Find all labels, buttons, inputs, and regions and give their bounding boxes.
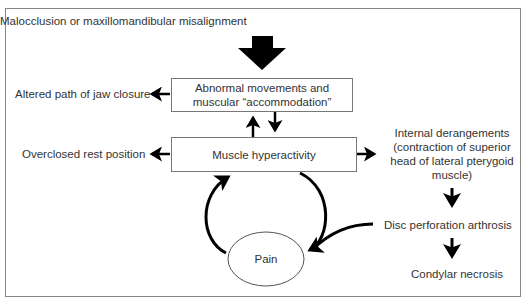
disc-perforation-label: Disc perforation arthrosis — [384, 218, 512, 232]
internal-line2: (contraction of superior — [382, 140, 522, 154]
internal-line3: head of lateral pterygoid — [382, 154, 522, 168]
internal-line1: Internal derangements — [382, 126, 522, 140]
abnormal-movements-box: Abnormal movements and muscular “accommo… — [171, 78, 353, 112]
internal-line4: muscle) — [382, 168, 522, 182]
big-down-arrow-icon — [238, 36, 286, 70]
condylar-necrosis-label: Condylar necrosis — [411, 267, 503, 281]
altered-path-label: Altered path of jaw closure — [15, 87, 151, 101]
abnormal-line1: Abnormal movements and — [195, 81, 329, 95]
muscle-hyperactivity-box: Muscle hyperactivity — [171, 137, 357, 172]
top-cause-label: Malocclusion or maxillomandibular misali… — [0, 14, 528, 28]
abnormal-line2: muscular “accommodation” — [193, 95, 332, 109]
pain-label: Pain — [228, 252, 304, 266]
overclosed-label: Overclosed rest position — [22, 147, 145, 161]
internal-derangements-label: Internal derangements (contraction of su… — [382, 126, 522, 182]
